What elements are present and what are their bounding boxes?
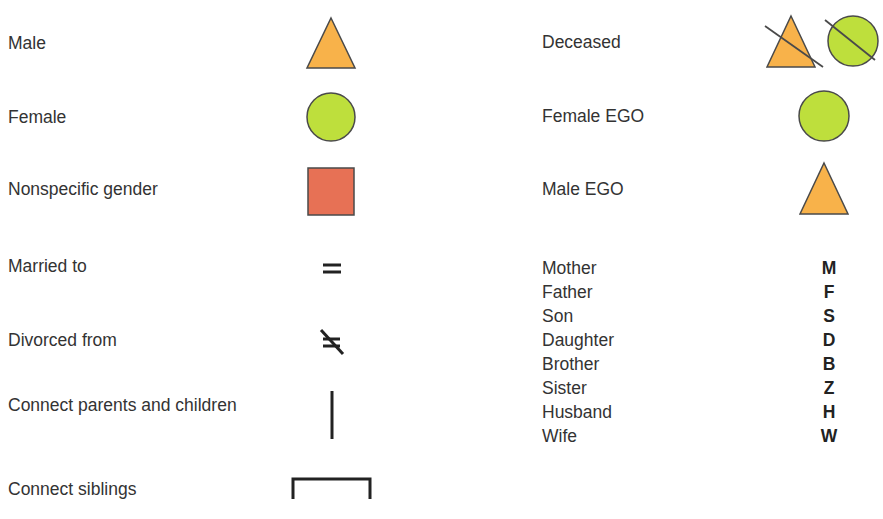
kin-codes-list: M F S D B Z H W [818,256,840,448]
kin-terms-list: Mother Father Son Daughter Brother Siste… [542,256,614,448]
kin-code-s: S [818,304,840,328]
kin-code-w: W [818,424,840,448]
parent-child-vertical-line-icon [329,391,335,441]
kin-term-son: Son [542,304,614,328]
label-nonspecific-gender: Nonspecific gender [8,181,158,199]
nonspecific-square-icon [307,167,355,217]
label-male-ego: Male EGO [542,181,624,199]
kin-term-mother: Mother [542,256,614,280]
female-ego-circle-icon [798,89,852,143]
male-ego-triangle-icon [799,162,851,216]
female-circle-icon [306,92,356,142]
label-deceased: Deceased [542,34,621,52]
kin-code-d: D [818,328,840,352]
kin-term-brother: Brother [542,352,614,376]
siblings-bracket-icon [291,477,373,501]
kin-code-b: B [818,352,840,376]
married-equals-icon [322,262,342,276]
kin-term-husband: Husband [542,400,614,424]
label-connect-parents-children: Connect parents and children [8,397,237,415]
label-married-to: Married to [8,258,87,276]
kin-code-f: F [818,280,840,304]
label-female-ego: Female EGO [542,108,644,126]
kin-term-sister: Sister [542,376,614,400]
label-divorced-from: Divorced from [8,332,117,350]
kin-term-father: Father [542,280,614,304]
label-connect-siblings: Connect siblings [8,481,136,499]
label-female: Female [8,109,66,127]
male-triangle-icon [306,17,356,69]
label-male: Male [8,35,46,53]
kin-term-daughter: Daughter [542,328,614,352]
deceased-circle-icon [825,14,883,70]
deceased-triangle-icon [764,14,826,70]
kin-term-wife: Wife [542,424,614,448]
kin-code-h: H [818,400,840,424]
kin-code-z: Z [818,376,840,400]
kin-code-m: M [818,256,840,280]
divorced-slashed-equals-icon [318,327,346,357]
